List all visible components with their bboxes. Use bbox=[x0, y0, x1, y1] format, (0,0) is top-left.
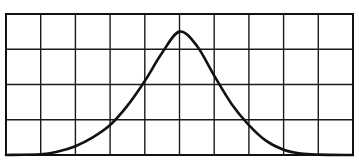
bell-curve-chart bbox=[0, 0, 359, 167]
chart-grid bbox=[6, 14, 353, 155]
